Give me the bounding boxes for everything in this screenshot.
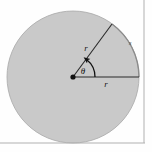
diagram-canvas: r r s θ: [0, 0, 152, 152]
diagonal-radius-label: r: [84, 43, 88, 53]
arc-length-label: s: [129, 39, 132, 47]
circle-arc-diagram: r r s θ: [0, 0, 152, 152]
circle-center-dot: [70, 74, 75, 79]
central-angle-label: θ: [81, 66, 86, 76]
horizontal-radius-label: r: [104, 79, 108, 89]
